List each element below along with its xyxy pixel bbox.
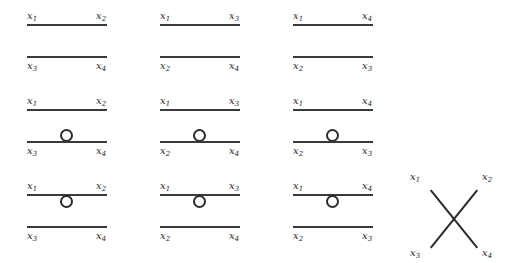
vertex-label-top-left: x1 (293, 180, 303, 193)
vertex-label-bottom-left: x2 (293, 230, 303, 243)
diagram-panel-r2c2: x1 x3 x2 x4 (154, 89, 270, 161)
vertex-label-top-right: x4 (362, 180, 372, 193)
lower-propagator-line (160, 56, 240, 58)
vertex-label-bottom-left: x2 (160, 145, 170, 158)
vertex-label-bottom-left: x2 (160, 230, 170, 243)
diagram-panel-r1c2: x1 x3 x2 x4 (154, 4, 270, 76)
crossing-diagram-panel: x1 x2 x3 x4 (402, 171, 506, 263)
vertex-label-top-right: x2 (96, 10, 106, 23)
lower-propagator-line (293, 141, 373, 143)
vertex-label-bottom-right: x4 (96, 60, 106, 73)
vertex-label-bottom-right: x3 (362, 60, 372, 73)
upper-propagator-line (27, 24, 107, 26)
upper-propagator-line (160, 109, 240, 111)
upper-propagator-line (293, 109, 373, 111)
vertex-label-top-right: x4 (362, 95, 372, 108)
vertex-label-top-left: x1 (160, 10, 170, 23)
vertex-label-top-right: x3 (229, 180, 239, 193)
vertex-label-bottom-left: x3 (27, 145, 37, 158)
loop-circle (326, 195, 339, 208)
vertex-label-bottom-right: x4 (229, 145, 239, 158)
lower-propagator-line (160, 226, 240, 228)
vertex-label-bottom-left: x3 (27, 230, 37, 243)
diagram-panel-r3c1: x1 x2 x3 x4 (21, 174, 137, 246)
vertex-label-top-left: x1 (160, 95, 170, 108)
diagram-panel-r1c1: x1 x2 x3 x4 (21, 4, 137, 76)
vertex-label-bottom-right: x3 (362, 145, 372, 158)
lower-propagator-line (293, 226, 373, 228)
vertex-label-top-left: x1 (27, 95, 37, 108)
diagram-panel-r2c1: x1 x2 x3 x4 (21, 89, 137, 161)
lower-propagator-line (27, 141, 107, 143)
vertex-label-bottom-left: x2 (293, 145, 303, 158)
upper-propagator-line (160, 24, 240, 26)
crossing-label-top-right: x2 (482, 171, 492, 184)
vertex-label-bottom-right: x4 (96, 230, 106, 243)
crossing-label-top-left: x1 (410, 171, 420, 184)
vertex-label-bottom-right: x4 (229, 60, 239, 73)
vertex-label-bottom-right: x4 (229, 230, 239, 243)
figure-canvas: x1 x2 x3 x4 x1 x3 x2 x4 x1 x4 x2 x3 x1 x… (0, 0, 511, 263)
lower-propagator-line (27, 56, 107, 58)
lower-propagator-line (293, 56, 373, 58)
upper-propagator-line (293, 24, 373, 26)
diagram-panel-r3c3: x1 x4 x2 x3 (287, 174, 403, 246)
lower-propagator-line (27, 226, 107, 228)
loop-circle (193, 195, 206, 208)
upper-propagator-line (27, 109, 107, 111)
lower-propagator-line (160, 141, 240, 143)
vertex-label-top-left: x1 (293, 95, 303, 108)
diagram-panel-r1c3: x1 x4 x2 x3 (287, 4, 403, 76)
vertex-label-bottom-left: x2 (293, 60, 303, 73)
vertex-label-bottom-left: x2 (160, 60, 170, 73)
vertex-label-top-left: x1 (27, 180, 37, 193)
vertex-label-top-right: x3 (229, 10, 239, 23)
diagram-panel-r3c2: x1 x3 x2 x4 (154, 174, 270, 246)
vertex-label-bottom-left: x3 (27, 60, 37, 73)
vertex-label-top-right: x2 (96, 180, 106, 193)
vertex-label-top-left: x1 (293, 10, 303, 23)
crossing-label-bottom-left: x3 (410, 247, 420, 260)
vertex-label-bottom-right: x4 (96, 145, 106, 158)
loop-circle (60, 195, 73, 208)
crossing-label-bottom-right: x4 (482, 247, 492, 260)
vertex-label-top-right: x4 (362, 10, 372, 23)
vertex-label-top-left: x1 (160, 180, 170, 193)
vertex-label-top-left: x1 (27, 10, 37, 23)
diagram-panel-r2c3: x1 x4 x2 x3 (287, 89, 403, 161)
vertex-label-top-right: x3 (229, 95, 239, 108)
vertex-label-bottom-right: x3 (362, 230, 372, 243)
vertex-label-top-right: x2 (96, 95, 106, 108)
